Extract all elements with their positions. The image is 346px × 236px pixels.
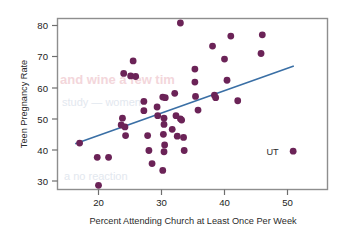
y-tick-label-30: 30 [37, 176, 48, 187]
data-point [161, 121, 168, 128]
data-point [180, 134, 187, 141]
scatter-plot-figure: and wine a few tim study — women a no re… [0, 0, 346, 236]
data-point [94, 154, 101, 161]
point-annotations-layer: UT [266, 147, 279, 157]
y-tick-label-80: 80 [37, 20, 48, 31]
data-point [259, 31, 266, 38]
data-point [149, 160, 156, 167]
data-point [122, 123, 129, 130]
bleed-text-line-1: and wine a few tim [60, 72, 175, 87]
y-tick-label-60: 60 [37, 83, 48, 94]
data-point [154, 104, 161, 111]
data-point [212, 94, 219, 101]
x-tick-label-30: 30 [156, 197, 167, 208]
chart-svg: and wine a few tim study — women a no re… [0, 0, 346, 236]
point-annotation-label: UT [266, 147, 279, 157]
data-point [161, 115, 168, 122]
data-point [95, 182, 102, 189]
data-point [181, 147, 188, 154]
x-tick-label-20: 20 [93, 197, 104, 208]
data-point [119, 115, 126, 122]
data-point [159, 167, 166, 174]
x-axis-title: Percent Attending Church at Least Once P… [89, 216, 297, 226]
data-point [132, 73, 139, 80]
data-point [290, 148, 297, 155]
data-point [140, 107, 147, 114]
y-tick-label-40: 40 [37, 145, 48, 156]
data-point [76, 140, 83, 147]
data-point [160, 131, 167, 138]
data-point [162, 94, 169, 101]
data-point [258, 50, 265, 57]
data-point [146, 147, 153, 154]
data-point [171, 90, 178, 97]
y-tick-label-50: 50 [37, 114, 48, 125]
data-point [227, 33, 234, 40]
data-point [209, 43, 216, 50]
data-point [221, 56, 228, 63]
data-point [195, 107, 202, 114]
x-tick-label-50: 50 [282, 197, 293, 208]
data-point [191, 66, 198, 73]
y-axis-title: Teen Pregnancy Rate [19, 60, 29, 148]
data-point [174, 133, 181, 140]
data-point [234, 97, 241, 104]
data-point [161, 142, 168, 149]
data-point [130, 58, 137, 65]
data-point [161, 148, 168, 155]
data-point [224, 77, 231, 84]
x-tick-label-40: 40 [219, 197, 230, 208]
data-point [122, 132, 129, 139]
data-point [178, 117, 185, 124]
figure-background [0, 0, 346, 236]
bleed-text-line-3: a no reaction [64, 170, 128, 182]
data-point [105, 154, 112, 161]
data-point [169, 126, 176, 133]
data-point [120, 70, 127, 77]
data-point [140, 98, 147, 105]
data-point [177, 20, 184, 27]
bleed-text-line-2: study — women [62, 96, 141, 108]
data-point [154, 112, 161, 119]
data-point [191, 79, 198, 86]
data-point [192, 93, 199, 100]
data-point [144, 132, 151, 139]
y-tick-label-70: 70 [37, 51, 48, 62]
